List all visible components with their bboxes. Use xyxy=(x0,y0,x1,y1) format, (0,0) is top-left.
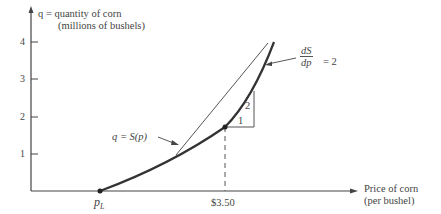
y-tick-1: 1 xyxy=(20,148,25,159)
y-tick-4: 4 xyxy=(20,36,25,47)
curve-label: q = S(p) xyxy=(112,131,147,142)
pL-point xyxy=(98,189,103,194)
chart-canvas xyxy=(0,0,441,214)
y-tick-3: 3 xyxy=(20,73,25,84)
pL-label: pL xyxy=(94,197,104,212)
supply-curve xyxy=(100,42,274,191)
y-axis-arrow-icon xyxy=(29,6,34,13)
y-axis-label-line2: (millions of bushels) xyxy=(58,20,145,31)
price-tick-label: $3.50 xyxy=(211,197,235,208)
x-axis-label-line1: Price of corn xyxy=(364,183,418,194)
y-axis-label-line1: q = quantity of corn xyxy=(38,8,122,19)
triangle-run-label: 1 xyxy=(238,115,243,126)
x-axis-arrow-icon xyxy=(350,189,358,194)
derivative-fraction: dS dp xyxy=(300,45,313,68)
x-axis-label-line2: (per bushel) xyxy=(364,195,414,206)
tangent-point xyxy=(223,125,228,130)
y-tick-2: 2 xyxy=(20,111,25,122)
derivative-rhs: = 2 xyxy=(323,56,337,67)
triangle-rise-label: 2 xyxy=(245,100,250,111)
